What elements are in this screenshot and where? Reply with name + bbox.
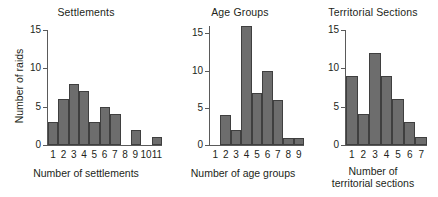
bar-slot	[346, 30, 358, 145]
bar	[262, 71, 272, 145]
x-axis-label-line2: territorial sections	[332, 177, 414, 189]
bar	[392, 99, 404, 145]
bar	[381, 76, 393, 145]
bar-slot	[294, 26, 304, 145]
y-axis-tick-label: 15	[328, 25, 339, 35]
y-axis-tick-label: 0	[35, 140, 41, 150]
bar-slot	[89, 30, 99, 145]
bar	[252, 93, 262, 145]
bar-slot	[283, 26, 293, 145]
y-axis-tick-label: 15	[192, 28, 203, 38]
x-axis-tick-label: 5	[392, 150, 404, 160]
plot-area-settlements: 051015	[47, 30, 162, 146]
bar	[220, 115, 230, 145]
bar	[231, 130, 241, 145]
y-axis-tick	[341, 107, 345, 108]
bar-slot	[58, 30, 68, 145]
x-axis-label-settlements: Number of settlements	[0, 167, 172, 179]
bar-slot	[152, 30, 162, 145]
bar	[358, 114, 370, 145]
bar-slot	[48, 30, 58, 145]
x-axis-tick-label: 4	[79, 150, 89, 160]
x-axis-tick-label: 6	[404, 150, 416, 160]
bar	[152, 137, 162, 145]
x-axis-tick-label: 3	[231, 150, 241, 160]
x-axis-tick-label: 3	[69, 150, 79, 160]
x-axis-tick-label: 5	[89, 150, 99, 160]
y-axis-tick	[43, 107, 47, 108]
x-axis-ticks-territorial-sections: 1234567	[346, 150, 427, 160]
bar	[110, 114, 120, 145]
x-axis-tick-label: 7	[110, 150, 120, 160]
x-axis-ticks-settlements: 1234567891011	[48, 150, 162, 160]
x-axis-tick-label: 3	[369, 150, 381, 160]
bar-slot	[121, 30, 131, 145]
y-axis-tick-label: 0	[197, 140, 203, 150]
y-axis-tick	[205, 108, 209, 109]
x-axis-tick-label: 2	[358, 150, 370, 160]
bar-slot	[381, 30, 393, 145]
bar	[58, 99, 68, 145]
bar	[294, 138, 304, 145]
x-axis-tick-label: 10	[141, 150, 152, 160]
x-axis-tick-label: 9	[130, 150, 140, 160]
bar-slot	[392, 30, 404, 145]
x-axis-line-age-groups	[209, 145, 304, 146]
x-axis-tick-label: 9	[294, 150, 304, 160]
x-axis-tick-label: 8	[283, 150, 293, 160]
bar	[89, 122, 99, 145]
x-axis-tick-label: 6	[99, 150, 109, 160]
y-axis-tick	[341, 68, 345, 69]
bar-slot	[369, 30, 381, 145]
plot-area-age-groups: 051015	[209, 26, 304, 146]
y-axis-tick-label: 5	[35, 102, 41, 112]
plot-area-territorial-sections: 051015	[345, 30, 427, 146]
x-axis-tick-label: 2	[220, 150, 230, 160]
bar-slot	[220, 26, 230, 145]
bar	[69, 84, 79, 145]
bar-slot	[273, 26, 283, 145]
x-axis-ticks-age-groups: 123456789	[210, 150, 304, 160]
bar-slot	[415, 30, 427, 145]
y-axis-tick	[341, 30, 345, 31]
bar-slot	[358, 30, 370, 145]
bar-slot	[79, 30, 89, 145]
y-axis-tick	[205, 33, 209, 34]
x-axis-tick-label: 4	[241, 150, 251, 160]
x-axis-line-settlements	[47, 145, 162, 146]
bar-slot	[210, 26, 220, 145]
y-axis-tick-label: 0	[333, 140, 339, 150]
y-axis-tick-label: 10	[328, 63, 339, 73]
x-axis-tick-label: 5	[252, 150, 262, 160]
histogram-figure: Settlements Number of raids 051015 12345…	[0, 0, 438, 197]
x-axis-tick-label: 1	[48, 150, 58, 160]
bar	[241, 26, 251, 145]
bar	[79, 91, 89, 145]
chart-title-age-groups: Age Groups	[172, 6, 308, 18]
bar-slot	[131, 30, 141, 145]
bar-slot	[110, 30, 120, 145]
x-axis-line-territorial-sections	[345, 145, 427, 146]
y-axis-tick-label: 10	[192, 66, 203, 76]
bar-slot	[141, 30, 151, 145]
y-axis-tick	[43, 145, 47, 146]
y-axis-tick	[43, 30, 47, 31]
x-axis-label-age-groups: Number of age groups	[172, 167, 314, 179]
bar-slot	[252, 26, 262, 145]
chart-panel-settlements: Settlements Number of raids 051015 12345…	[0, 0, 172, 197]
x-axis-tick-label: 4	[381, 150, 393, 160]
x-axis-tick-label: 8	[120, 150, 130, 160]
x-axis-tick-label: 1	[210, 150, 220, 160]
chart-title-territorial-sections: Territorial Sections	[308, 6, 438, 18]
y-axis-tick-label: 5	[333, 102, 339, 112]
bar-slot	[241, 26, 251, 145]
bar-slot	[231, 26, 241, 145]
y-axis-tick	[341, 145, 345, 146]
bar	[369, 53, 381, 145]
x-axis-label-line1: Number of	[348, 165, 397, 177]
y-axis-tick	[205, 145, 209, 146]
y-axis-tick-label: 10	[30, 63, 41, 73]
bar-group-settlements	[48, 30, 162, 145]
x-axis-tick-label: 7	[273, 150, 283, 160]
bar	[283, 138, 293, 145]
